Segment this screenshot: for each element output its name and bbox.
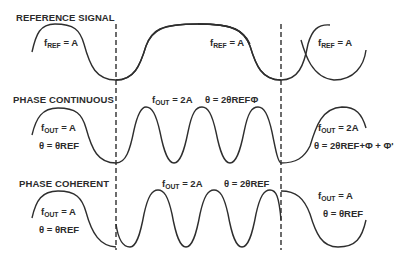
section-title-reference: REFERENCE SIGNAL [16, 12, 115, 23]
reference-waveform [32, 24, 330, 80]
coh-label-2-freq: fOUT = 2A [162, 178, 203, 189]
coh-label-3-theta: θ = θREF [323, 208, 363, 219]
section-title-phase-coherent: PHASE COHERENT [19, 178, 109, 189]
ref-label-1: fREF = A [44, 37, 78, 48]
ref-label-2: fREF = A [210, 37, 244, 48]
pc-label-3-freq: fOUT = 2A [318, 122, 359, 133]
pc-label-3-theta: θ = 2θREF+Φ + Φ' [314, 140, 394, 151]
phase-continuous-waveform [32, 107, 366, 163]
phase-diagram: REFERENCE SIGNAL PHASE CONTINUOUS PHASE … [0, 0, 398, 260]
coh-label-3-freq: fOUT = A [318, 190, 353, 201]
pc-label-2-freq: fOUT = 2A [152, 94, 193, 105]
pc-label-1-freq: fOUT = A [41, 122, 76, 133]
coh-label-1-theta: θ = θREF [39, 224, 79, 235]
section-title-phase-continuous: PHASE CONTINUOUS [13, 94, 114, 105]
coh-label-2-theta: θ = 2θREF [224, 178, 269, 189]
pc-label-1-theta: θ = θREF [39, 140, 79, 151]
phase-coherent-waveform [32, 190, 366, 247]
ref-label-3: fREF = A [318, 37, 352, 48]
pc-label-2-theta: θ = 2θREFΦ [205, 94, 258, 105]
coh-label-1-freq: fOUT = A [41, 206, 76, 217]
